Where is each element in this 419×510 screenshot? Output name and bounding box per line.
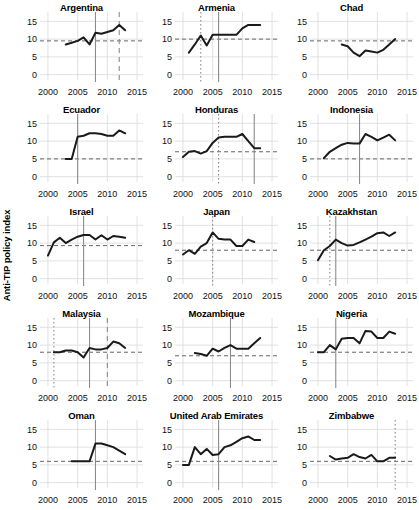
svg-text:10: 10 (162, 136, 172, 146)
svg-text:2000: 2000 (308, 393, 328, 403)
y-axis-label-text: Anti-TIP policy index (2, 209, 13, 301)
svg-text:10: 10 (297, 136, 307, 146)
svg-text:10: 10 (297, 340, 307, 350)
svg-text:2015: 2015 (127, 393, 147, 403)
svg-text:15: 15 (27, 425, 37, 435)
svg-text:2005: 2005 (203, 291, 223, 301)
svg-text:10: 10 (297, 34, 307, 44)
panel-malaysia: Malaysia0510152000200520102015 (14, 306, 149, 408)
small-multiples-chart: Anti-TIP policy index Argentina051015200… (0, 0, 419, 510)
svg-text:0: 0 (167, 172, 172, 182)
svg-text:2010: 2010 (367, 291, 387, 301)
svg-text:2015: 2015 (262, 291, 282, 301)
svg-text:10: 10 (162, 34, 172, 44)
svg-text:15: 15 (297, 323, 307, 333)
svg-text:2000: 2000 (38, 495, 58, 505)
panel-armenia: Armenia0510152000200520102015 (149, 0, 284, 102)
svg-text:0: 0 (167, 478, 172, 488)
y-axis-label: Anti-TIP policy index (0, 0, 14, 510)
panel-ecuador: Ecuador0510152000200520102015 (14, 102, 149, 204)
svg-text:2010: 2010 (367, 87, 387, 97)
svg-text:10: 10 (27, 238, 37, 248)
svg-text:5: 5 (302, 154, 307, 164)
panel-zimbabwe: Zimbabwe0510152000200520102015 (284, 408, 419, 510)
svg-text:0: 0 (302, 376, 307, 386)
svg-text:15: 15 (297, 119, 307, 129)
svg-text:2010: 2010 (97, 291, 117, 301)
svg-text:15: 15 (162, 17, 172, 27)
svg-text:0: 0 (32, 172, 37, 182)
svg-text:2010: 2010 (232, 87, 252, 97)
svg-text:5: 5 (167, 256, 172, 266)
svg-text:2015: 2015 (262, 495, 282, 505)
svg-text:5: 5 (32, 52, 37, 62)
svg-text:15: 15 (27, 17, 37, 27)
svg-text:15: 15 (27, 221, 37, 231)
svg-text:2015: 2015 (127, 87, 147, 97)
svg-text:2015: 2015 (397, 393, 417, 403)
svg-text:2000: 2000 (308, 495, 328, 505)
svg-text:2000: 2000 (173, 495, 193, 505)
svg-text:15: 15 (27, 323, 37, 333)
svg-text:5: 5 (167, 460, 172, 470)
svg-text:5: 5 (32, 256, 37, 266)
svg-text:2015: 2015 (127, 291, 147, 301)
panel-japan: Japan0510152000200520102015 (149, 204, 284, 306)
svg-text:5: 5 (302, 52, 307, 62)
svg-text:2005: 2005 (68, 393, 88, 403)
svg-text:2005: 2005 (203, 189, 223, 199)
panel-argentina: Argentina0510152000200520102015 (14, 0, 149, 102)
svg-text:2005: 2005 (68, 87, 88, 97)
panel-chad: Chad0510152000200520102015 (284, 0, 419, 102)
svg-text:10: 10 (162, 238, 172, 248)
svg-text:2005: 2005 (338, 495, 358, 505)
svg-text:2005: 2005 (203, 393, 223, 403)
svg-text:2010: 2010 (232, 393, 252, 403)
svg-text:10: 10 (297, 442, 307, 452)
svg-text:5: 5 (32, 154, 37, 164)
svg-text:2000: 2000 (38, 291, 58, 301)
svg-text:15: 15 (297, 425, 307, 435)
svg-text:0: 0 (167, 70, 172, 80)
svg-text:2010: 2010 (232, 189, 252, 199)
svg-text:2015: 2015 (262, 87, 282, 97)
svg-text:2005: 2005 (203, 87, 223, 97)
svg-text:15: 15 (162, 425, 172, 435)
svg-text:2015: 2015 (397, 291, 417, 301)
svg-text:2000: 2000 (173, 393, 193, 403)
svg-text:5: 5 (32, 358, 37, 368)
svg-text:2005: 2005 (68, 495, 88, 505)
svg-text:0: 0 (302, 274, 307, 284)
panel-kazakhstan: Kazakhstan0510152000200520102015 (284, 204, 419, 306)
svg-text:2015: 2015 (397, 189, 417, 199)
svg-text:10: 10 (297, 238, 307, 248)
svg-text:2015: 2015 (397, 87, 417, 97)
svg-text:2000: 2000 (38, 189, 58, 199)
svg-text:0: 0 (32, 70, 37, 80)
svg-text:10: 10 (27, 136, 37, 146)
svg-text:2010: 2010 (97, 393, 117, 403)
svg-text:2015: 2015 (127, 495, 147, 505)
svg-text:2010: 2010 (367, 393, 387, 403)
svg-text:5: 5 (302, 460, 307, 470)
svg-text:0: 0 (302, 172, 307, 182)
svg-text:0: 0 (302, 478, 307, 488)
svg-text:15: 15 (162, 323, 172, 333)
svg-text:0: 0 (302, 70, 307, 80)
panel-indonesia: Indonesia0510152000200520102015 (284, 102, 419, 204)
svg-text:2005: 2005 (338, 87, 358, 97)
svg-text:15: 15 (162, 221, 172, 231)
svg-text:2010: 2010 (97, 189, 117, 199)
svg-text:5: 5 (32, 460, 37, 470)
svg-text:10: 10 (27, 442, 37, 452)
svg-text:2005: 2005 (68, 291, 88, 301)
svg-text:0: 0 (32, 376, 37, 386)
panel-united-arab-emirates: United Arab Emirates05101520002005201020… (149, 408, 284, 510)
svg-text:2000: 2000 (173, 189, 193, 199)
svg-text:2005: 2005 (338, 189, 358, 199)
svg-text:2005: 2005 (68, 189, 88, 199)
svg-text:0: 0 (32, 274, 37, 284)
svg-text:10: 10 (162, 442, 172, 452)
svg-text:5: 5 (167, 52, 172, 62)
panel-grid: Argentina0510152000200520102015Armenia05… (14, 0, 419, 510)
